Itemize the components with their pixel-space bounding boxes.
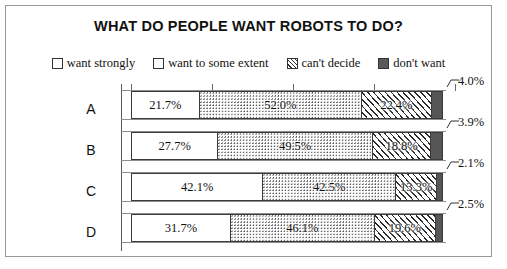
swatch-hatched-icon [287,58,298,69]
segment-want-strongly: 31.7% [131,214,230,242]
legend-item-cant-decide: can't decide [287,56,361,71]
segment-want-to-some-extent: 46.1% [230,214,374,242]
segment-cant-decide: 19.6% [374,214,435,242]
legend-item-want-strongly: want strongly [52,56,135,71]
category-label-a: A [78,101,104,117]
gridline [121,119,446,120]
callout-label-c: 2.1% [458,156,484,171]
bar-row-a: 21.7% 52.0% 22.4% [131,91,443,119]
bar-row-d: 31.7% 46.1% 19.6% [131,214,443,242]
segment-dont-want [431,91,444,119]
chart-legend: want strongly want to some extent can't … [6,56,491,71]
legend-label: don't want [393,56,445,71]
segment-cant-decide: 18.8% [372,132,431,160]
segment-want-to-some-extent: 42.5% [262,173,395,201]
chart-frame: WHAT DO PEOPLE WANT ROBOTS TO DO? want s… [5,5,492,257]
bar-row-b: 27.7% 49.5% 18.8% [131,132,443,160]
gridline [121,160,446,161]
y-axis [121,84,122,251]
legend-item-dont-want: don't want [378,56,445,71]
callout-label-b: 3.9% [458,115,484,130]
plot-area: 21.7% 52.0% 22.4% 27.7% 49.5% 18.8% 42.1… [121,84,446,251]
chart-title: WHAT DO PEOPLE WANT ROBOTS TO DO? [6,18,491,34]
swatch-dotted-icon [153,58,164,69]
segment-want-strongly: 42.1% [131,173,262,201]
swatch-white-icon [52,58,63,69]
legend-label: can't decide [302,56,361,71]
category-label-c: C [78,183,104,199]
bar-row-c: 42.1% 42.5% 13.3% [131,173,443,201]
category-label-d: D [78,224,104,240]
gridline [121,201,446,202]
gridline [121,242,446,243]
legend-label: want to some extent [168,56,268,71]
segment-want-strongly: 21.7% [131,91,199,119]
segment-want-to-some-extent: 49.5% [217,132,371,160]
segment-want-strongly: 27.7% [131,132,217,160]
callout-label-d: 2.5% [458,197,484,212]
callout-label-a: 4.0% [458,74,484,89]
category-label-b: B [78,142,104,158]
segment-cant-decide: 22.4% [361,91,431,119]
segment-dont-want [435,214,443,242]
legend-item-want-to-some-extent: want to some extent [153,56,268,71]
segment-cant-decide: 13.3% [395,173,437,201]
segment-dont-want [430,132,442,160]
legend-label: want strongly [67,56,135,71]
segment-want-to-some-extent: 52.0% [199,91,361,119]
swatch-dark-icon [378,58,389,69]
segment-dont-want [436,173,443,201]
